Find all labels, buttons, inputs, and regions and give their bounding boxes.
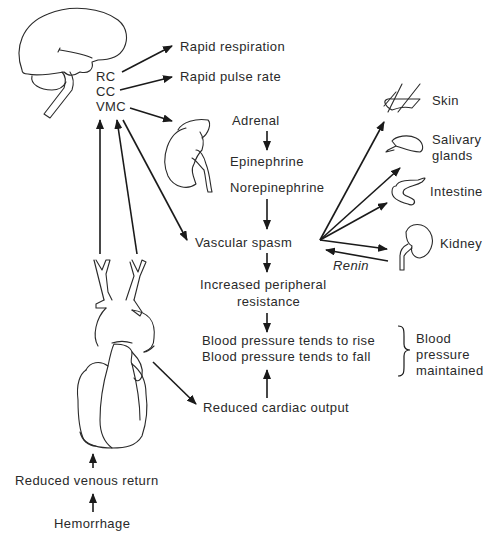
arrow-to-kidney: [320, 240, 387, 249]
label-epinephrine: Epinephrine: [230, 154, 304, 169]
label-bp-fall: Blood pressure tends to fall: [202, 349, 371, 364]
label-skin: Skin: [432, 93, 459, 108]
label-intestine: Intestine: [430, 184, 483, 199]
arrow-vmc-to-adrenal: [130, 108, 172, 121]
label-rapid-respiration: Rapid respiration: [180, 39, 285, 54]
label-rapid-pulse: Rapid pulse rate: [180, 69, 281, 84]
arrow-rc-to-respiration: [122, 46, 172, 72]
label-bp-maintained-2: pressure: [416, 347, 470, 362]
label-reduced-venous-return: Reduced venous return: [15, 473, 159, 488]
label-cc: CC: [96, 84, 116, 99]
kidney-icon: [400, 225, 432, 271]
label-adrenal: Adrenal: [232, 113, 280, 128]
label-vascular-spasm: Vascular spasm: [195, 235, 292, 250]
heart-icon: [77, 260, 154, 448]
arrow-to-salivary: [320, 168, 400, 240]
intestine-icon: [392, 178, 425, 205]
label-increased-resistance-2: resistance: [237, 294, 300, 309]
label-reduced-cardiac-output: Reduced cardiac output: [203, 400, 349, 415]
label-rc: RC: [96, 69, 116, 84]
label-bp-rise: Blood pressure tends to rise: [202, 333, 375, 348]
skin-icon: [384, 84, 420, 112]
hemorrhage-compensation-diagram: RC CC VMC Rapid respiration Rapid pulse …: [0, 0, 493, 535]
salivary-gland-icon: [386, 136, 423, 152]
label-salivary-line2: glands: [432, 148, 473, 163]
label-bp-maintained-3: maintained: [416, 363, 484, 378]
label-salivary-line1: Salivary: [432, 132, 482, 147]
label-norepinephrine: Norepinephrine: [230, 180, 325, 195]
label-hemorrhage: Hemorrhage: [54, 516, 130, 531]
arrow-cc-to-pulse: [120, 77, 172, 90]
label-renin: Renin: [333, 258, 369, 273]
label-bp-maintained-1: Blood: [416, 331, 451, 346]
brace: [398, 326, 410, 376]
arrow-heart-to-cardiac-output: [153, 362, 196, 404]
label-kidney: Kidney: [440, 236, 482, 251]
label-vmc: VMC: [96, 99, 126, 114]
label-increased-resistance-1: Increased peripheral: [200, 277, 327, 292]
adrenal-kidney-icon: [165, 119, 212, 192]
